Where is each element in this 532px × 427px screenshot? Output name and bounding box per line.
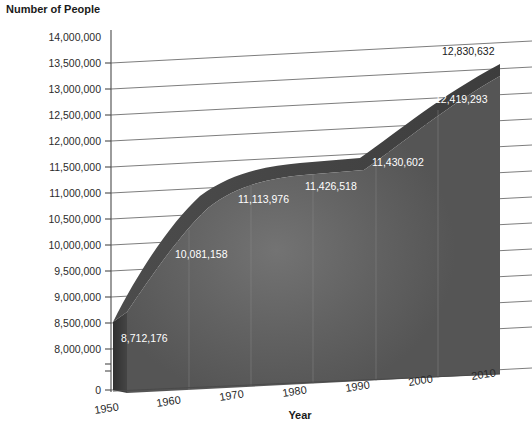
area-side-face	[113, 312, 127, 393]
y-tick-label: 8,500,000	[54, 317, 101, 329]
y-tick-label: 9,500,000	[54, 265, 101, 277]
chart-container: Number of People	[0, 0, 532, 427]
area-chart: Number of People	[0, 0, 532, 427]
y-tick-label-zero: 0	[95, 384, 101, 396]
data-label: 12,830,632	[442, 45, 495, 57]
data-label: 11,426,518	[305, 180, 357, 192]
data-label: 10,081,158	[175, 248, 228, 260]
y-tick-label: 9,000,000	[54, 291, 101, 303]
y-tick-label: 13,500,000	[48, 57, 101, 69]
y-tick-label: 12,000,000	[48, 135, 101, 147]
y-axis-title: Number of People	[6, 3, 100, 15]
y-tick-label: 14,000,000	[48, 31, 101, 43]
y-tick-label: 11,500,000	[49, 161, 101, 173]
y-tick-label: 12,500,000	[48, 109, 101, 121]
y-tick-label: 10,000,000	[48, 239, 101, 251]
data-label: 8,712,176	[121, 332, 168, 344]
data-label: 12,419,293	[435, 93, 488, 105]
x-axis-title: Year	[288, 409, 312, 421]
y-tick-label: 10,500,000	[48, 213, 101, 225]
y-tick-label: 13,000,000	[48, 83, 101, 95]
data-label: 11,113,976	[238, 193, 289, 205]
y-tick-label: 11,000,000	[49, 187, 101, 199]
data-label: 11,430,602	[372, 156, 424, 168]
y-tick-label: 8,000,000	[54, 343, 101, 355]
